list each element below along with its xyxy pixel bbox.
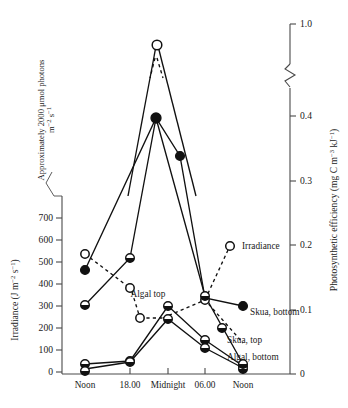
x-axis-tick-labels: Noon 18.00 Midnight 06.00 Noon <box>75 380 254 390</box>
left-tick-600: 600 <box>39 234 54 245</box>
right-axis-title-a: Photosynthetic efficiency (mg C m <box>328 156 340 291</box>
left-axis-title: Irradiance (J m−2 s−1) <box>9 259 22 340</box>
left-tick-700: 700 <box>39 212 54 223</box>
point-skua-bottom-midnight <box>151 113 161 123</box>
markers-irradiance <box>81 40 209 322</box>
point-skua-top-1800 <box>126 254 135 263</box>
bottom-axis <box>62 368 290 374</box>
chart-figure: 700 600 500 400 300 200 100 0 Irradiance… <box>0 0 348 408</box>
left-tick-300: 300 <box>39 300 54 311</box>
right-axis-title-b: kJ <box>328 139 339 150</box>
point-skua-bottom-noon1 <box>81 266 90 275</box>
svg-text:m−2 s−1: m−2 s−1 <box>45 107 56 133</box>
series-irradiance <box>85 58 243 343</box>
point-skua-top-noon1 <box>81 301 90 310</box>
point-irradiance-extra <box>136 314 144 322</box>
point-algal-bottom-1800 <box>126 358 135 367</box>
left-axis-title-a: Irradiance (J m <box>9 282 21 341</box>
chart-svg: 700 600 500 400 300 200 100 0 Irradiance… <box>0 0 348 408</box>
legend-label-skua-top: Skua, top <box>227 335 262 345</box>
point-skua-bottom-noon2 <box>239 302 248 311</box>
right-tick-0-2: 0.2 <box>300 239 312 250</box>
point-algal-bottom-0600 <box>201 344 210 353</box>
left-tick-100: 100 <box>39 344 54 355</box>
series-algal-top <box>85 306 243 366</box>
inline-series-labels: Irradiance Skua, bottom Skua, top Algal,… <box>131 241 301 362</box>
point-irradiance-noon1 <box>81 250 89 258</box>
right-tick-1-0: 1.0 <box>300 18 312 29</box>
markers-skua-bottom <box>81 113 248 310</box>
x-tick-0600: 06.00 <box>195 380 216 390</box>
x-tick-noon-2: Noon <box>233 380 254 390</box>
point-algal-top-midnight <box>164 302 173 311</box>
left-tick-500: 500 <box>39 256 54 267</box>
point-irradiance-midnight-offscale <box>152 40 162 50</box>
offscale-note: Approximately 2000 μmol photons m−2 s−1 <box>36 59 56 181</box>
right-tick-0: 0 <box>300 368 305 379</box>
point-algal-bottom-noon1 <box>81 367 90 376</box>
point-skua-top-mid2 <box>218 324 227 333</box>
legend-label-algal-bottom: Algal, bottom <box>227 352 279 362</box>
annotation-leader-line <box>46 172 62 196</box>
svg-text:Photosynthetic efficiency (mg: Photosynthetic efficiency (mg C m−3 kJ−1… <box>328 129 341 291</box>
offscale-note-sup2: −1 <box>45 107 52 114</box>
right-axis-title-sup2: −1 <box>328 132 335 139</box>
point-algal-bottom-midnight <box>164 315 173 324</box>
right-axis <box>285 24 296 374</box>
x-tick-1800: 18.00 <box>120 380 141 390</box>
offscale-note-sup1: −2 <box>45 119 52 126</box>
x-tick-midnight: Midnight <box>151 380 186 390</box>
right-axis-title: Photosynthetic efficiency (mg C m−3 kJ−1… <box>328 129 341 291</box>
left-axis-tick-labels: 700 600 500 400 300 200 100 0 <box>39 212 54 377</box>
right-axis-tick-labels: 1.0 0.4 0.3 0.2 0.1 0 <box>300 18 312 379</box>
left-axis-title-c: ) <box>9 259 21 262</box>
left-axis-title-sup2: −1 <box>9 262 16 269</box>
left-axis-title-sup1: −2 <box>9 276 16 283</box>
left-tick-200: 200 <box>39 322 54 333</box>
irradiance-offscale-connectors <box>128 46 196 196</box>
right-tick-0-3: 0.3 <box>300 175 312 186</box>
legend-label-irradiance: Irradiance <box>242 241 280 251</box>
right-axis-title-c: ) <box>328 129 340 132</box>
point-skua-bottom-post <box>176 152 185 161</box>
left-tick-400: 400 <box>39 278 54 289</box>
left-tick-0: 0 <box>48 366 53 377</box>
legend-label-algal-top: Algal top <box>131 289 166 299</box>
x-tick-noon-1: Noon <box>75 380 96 390</box>
right-tick-0-1: 0.1 <box>300 304 312 315</box>
right-tick-0-4: 0.4 <box>300 110 312 121</box>
legend-marker-irradiance <box>226 242 235 251</box>
legend-label-skua-bottom: Skua, bottom <box>250 307 300 317</box>
left-axis <box>56 196 62 374</box>
svg-text:Irradiance (J m−2 s−1): Irradiance (J m−2 s−1) <box>9 259 22 340</box>
